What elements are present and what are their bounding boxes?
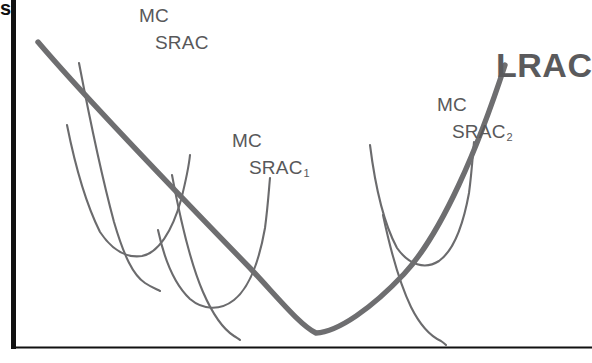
srac-label-2-subscript: 2 [507, 131, 513, 143]
mc-label-2: MC [437, 95, 467, 114]
lrac-label: LRAC [496, 48, 592, 82]
corner-text-fragment: s [0, 0, 11, 18]
mc-curve-0 [79, 63, 160, 291]
cost-curve-figure: s MC SRAC MC SRAC1 MC SRAC2 LRAC [0, 0, 592, 363]
mc-label-1: MC [232, 131, 262, 150]
mc-curve-2 [383, 215, 446, 345]
srac-label-1-subscript: 1 [304, 167, 310, 179]
srac-label-1-text: SRAC [249, 157, 303, 178]
lrac-curve [38, 42, 505, 333]
srac-label-2: SRAC2 [452, 122, 512, 141]
srac-curve-1 [158, 178, 270, 308]
srac-label-0: SRAC [155, 33, 209, 52]
srac-label-1: SRAC1 [249, 158, 309, 177]
srac-label-2-text: SRAC [452, 121, 506, 142]
mc-label-0: MC [139, 6, 169, 25]
